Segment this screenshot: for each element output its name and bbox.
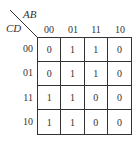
kmap-cell: 1 — [85, 38, 108, 62]
kmap-cell: 1 — [61, 62, 84, 86]
karnaugh-map: AB CD 00 01 11 10 00 01 11 10 0 1 1 0 0 … — [0, 0, 139, 143]
kmap-cell: 1 — [85, 62, 108, 86]
kmap-cell: 1 — [38, 110, 61, 134]
kmap-cell: 0 — [85, 86, 108, 110]
column-variable-label: AB — [23, 9, 36, 20]
kmap-cell: 1 — [61, 86, 84, 110]
diagonal-divider — [0, 0, 40, 40]
column-header: 01 — [61, 25, 85, 35]
row-header: 01 — [14, 68, 33, 78]
kmap-cell: 0 — [38, 62, 61, 86]
row-header: 11 — [14, 93, 33, 103]
row-header: 10 — [14, 117, 33, 127]
kmap-cell: 1 — [61, 110, 84, 134]
kmap-cell: 1 — [61, 38, 84, 62]
kmap-cell: 0 — [85, 110, 108, 134]
row-header: 00 — [14, 44, 33, 54]
column-header: 00 — [37, 25, 61, 35]
kmap-cell: 0 — [108, 110, 131, 134]
kmap-cell: 0 — [108, 62, 131, 86]
column-header: 10 — [108, 25, 132, 35]
kmap-grid: 0 1 1 0 0 1 1 0 1 1 0 0 1 1 0 0 — [37, 37, 132, 135]
kmap-cell: 0 — [108, 38, 131, 62]
column-header: 11 — [84, 25, 108, 35]
kmap-cell: 0 — [108, 86, 131, 110]
kmap-cell: 0 — [38, 38, 61, 62]
kmap-cell: 1 — [38, 86, 61, 110]
row-variable-label: CD — [6, 23, 21, 34]
